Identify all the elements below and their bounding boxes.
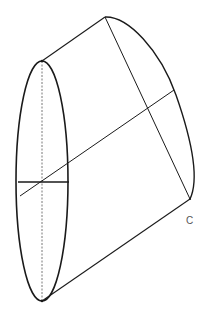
bottom-generator [42,199,190,301]
vertex-c [189,198,191,200]
far-curved-edge [105,17,194,199]
cylinder-diagram: C [0,0,215,316]
top-generator [42,17,105,61]
central-axis [20,90,174,196]
point-c-label: C [186,215,193,226]
vertex-top-ellipse [41,60,44,63]
vertex-bottom-ellipse [41,300,44,303]
